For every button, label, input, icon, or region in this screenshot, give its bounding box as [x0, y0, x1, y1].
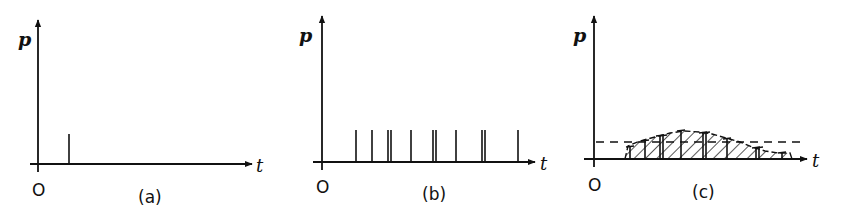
- stochastic-impulse-figure: ptO(a) ptO(b) ptO(c): [0, 0, 843, 216]
- impulse-cap: [641, 140, 649, 141]
- x-axis-label: t: [812, 150, 820, 171]
- origin-label: O: [588, 175, 601, 195]
- y-axis-label: p: [18, 28, 32, 50]
- panel-b: ptO(b): [299, 16, 548, 204]
- panel-c: ptO(c): [573, 16, 820, 202]
- y-axis-label: p: [299, 24, 313, 46]
- x-axis-label: t: [540, 153, 548, 174]
- y-axis-label: p: [573, 24, 587, 46]
- impulse-cap: [626, 146, 634, 147]
- hatched-response-area: [625, 131, 792, 159]
- impulse-cap: [702, 132, 710, 133]
- panel-a: ptO(a): [18, 20, 264, 207]
- impulse-cap: [677, 130, 685, 131]
- x-axis-label: t: [256, 155, 264, 176]
- panel-caption: (b): [422, 184, 446, 204]
- impulse-cap: [723, 138, 731, 139]
- origin-label: O: [32, 180, 45, 200]
- panel-caption: (c): [692, 182, 715, 202]
- impulse-cap: [659, 135, 667, 136]
- panel-caption: (a): [138, 187, 162, 207]
- origin-label: O: [316, 177, 329, 197]
- impulse-cap: [778, 152, 786, 153]
- impulse-cap: [755, 147, 763, 148]
